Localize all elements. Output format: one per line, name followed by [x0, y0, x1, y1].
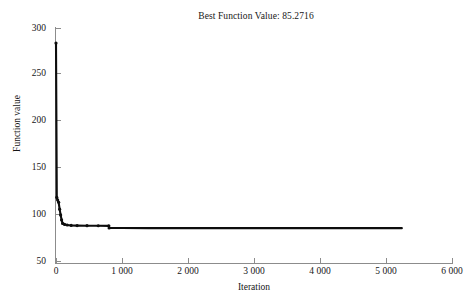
- y-axis-line: [55, 27, 56, 264]
- y-tick-150: [56, 167, 61, 168]
- y-tick-label-200: 200: [0, 115, 46, 125]
- y-tick-250: [56, 73, 61, 74]
- x-tick-6000: [452, 258, 453, 263]
- y-tick-300: [56, 28, 61, 29]
- series-point: [57, 201, 60, 204]
- series-point: [63, 223, 66, 226]
- series-point: [61, 222, 64, 225]
- x-tick-label-3000: 3 000: [224, 266, 284, 277]
- x-tick-1000: [122, 258, 123, 263]
- y-tick-label-250: 250: [0, 68, 46, 78]
- x-tick-label-4000: 4 000: [290, 266, 350, 277]
- series-point: [85, 224, 88, 227]
- series-point: [56, 198, 59, 201]
- series-group-best-function-value: [54, 42, 401, 230]
- y-tick-100: [56, 214, 61, 215]
- y-tick-label-50: 50: [0, 256, 46, 266]
- y-tick-label-100: 100: [0, 209, 46, 219]
- x-axis-line: [55, 263, 453, 264]
- series-point: [107, 224, 110, 227]
- series-point: [66, 223, 69, 226]
- series-line: [56, 43, 402, 228]
- y-tick-label-150: 150: [0, 162, 46, 172]
- x-tick-3000: [254, 258, 255, 263]
- x-tick-label-5000: 5 000: [356, 266, 416, 277]
- x-tick-4000: [320, 258, 321, 263]
- x-tick-label-0: 0: [26, 266, 86, 277]
- series-point: [76, 224, 79, 227]
- series-plot: [0, 0, 470, 305]
- x-axis-label: Iteration: [56, 282, 452, 293]
- x-tick-0: [56, 258, 57, 263]
- chart-figure: Best Function Value: 85.2716 300 250 200…: [0, 0, 470, 305]
- series-point: [58, 208, 61, 211]
- series-point: [97, 224, 100, 227]
- x-tick-2000: [188, 258, 189, 263]
- y-axis-label: Function value: [12, 69, 23, 179]
- x-tick-label-1000: 1 000: [92, 266, 152, 277]
- y-tick-200: [56, 120, 61, 121]
- x-tick-label-2000: 2 000: [158, 266, 218, 277]
- x-tick-label-6000: 6 000: [422, 266, 470, 277]
- series-point: [60, 218, 63, 221]
- x-tick-5000: [386, 258, 387, 263]
- series-point: [70, 224, 73, 227]
- series-point: [108, 226, 111, 229]
- series-markers: [54, 42, 110, 230]
- chart-title: Best Function Value: 85.2716: [56, 10, 456, 22]
- y-tick-label-300: 300: [0, 23, 46, 33]
